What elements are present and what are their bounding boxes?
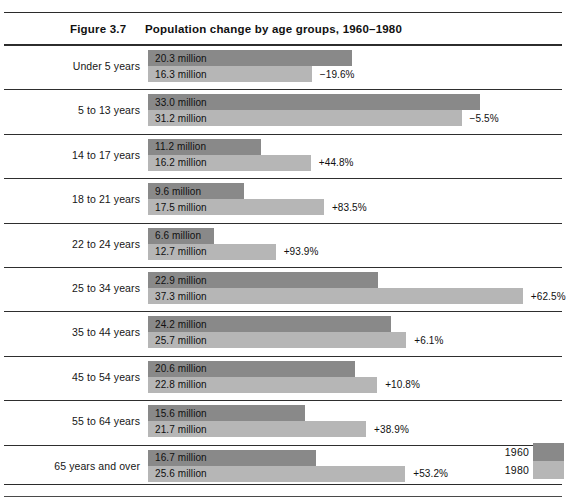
bar-value-1960: 22.9 million xyxy=(155,275,207,286)
bar-1960: 11.2 million xyxy=(148,139,261,155)
bar-value-1960: 20.6 million xyxy=(155,363,207,374)
row-category-label: 65 years and over xyxy=(0,445,140,487)
bar-value-1960: 20.3 million xyxy=(155,53,207,64)
bar-value-1960: 16.7 million xyxy=(155,452,207,463)
bar-1980: 16.2 million xyxy=(148,155,311,171)
bar-1960: 9.6 million xyxy=(148,183,244,199)
row-category-label: 55 to 64 years xyxy=(0,400,140,442)
bar-1960: 16.7 million xyxy=(148,450,316,466)
bar-value-1980: 25.6 million xyxy=(155,468,207,479)
row-bars: 15.6 million21.7 million+38.9% xyxy=(148,405,564,439)
bar-1960: 33.0 million xyxy=(148,94,480,110)
row-bars: 33.0 million31.2 million−5.5% xyxy=(148,94,564,128)
row-category-label: 25 to 34 years xyxy=(0,267,140,309)
row-bars: 24.2 million25.7 million+6.1% xyxy=(148,316,564,350)
bar-1960: 20.3 million xyxy=(148,50,352,66)
bar-1980: 17.5 million xyxy=(148,199,324,215)
bar-value-1960: 33.0 million xyxy=(155,97,207,108)
bar-value-1960: 6.6 million xyxy=(155,230,201,241)
bar-1960: 15.6 million xyxy=(148,405,305,421)
row-bars: 22.9 million37.3 million+62.5% xyxy=(148,272,564,306)
row-bars: 6.6 million12.7 million+93.9% xyxy=(148,228,564,262)
bar-value-1980: 16.3 million xyxy=(155,69,207,80)
row-category-label: 5 to 13 years xyxy=(0,89,140,131)
figure-number: Figure 3.7 xyxy=(70,23,126,35)
bar-value-1980: 37.3 million xyxy=(155,291,207,302)
percent-change-label: +53.2% xyxy=(413,466,448,482)
legend-swatch-1960 xyxy=(533,443,564,461)
percent-change-label: +38.9% xyxy=(374,421,409,437)
percent-change-label: +10.8% xyxy=(385,377,420,393)
bar-1980: 22.8 million xyxy=(148,377,377,393)
percent-change-label: +44.8% xyxy=(319,155,354,171)
row-category-label: Under 5 years xyxy=(0,45,140,87)
row-bars: 9.6 million17.5 million+83.5% xyxy=(148,183,564,217)
bar-1980: 12.7 million xyxy=(148,244,276,260)
bar-1960: 20.6 million xyxy=(148,361,355,377)
bar-value-1980: 17.5 million xyxy=(155,202,207,213)
bar-value-1960: 24.2 million xyxy=(155,319,207,330)
figure-header: Figure 3.7 Population change by age grou… xyxy=(0,16,564,42)
row-category-label: 14 to 17 years xyxy=(0,134,140,176)
footer-rule-top xyxy=(4,484,562,485)
legend-label-1980: 1980 xyxy=(505,464,529,476)
bar-1980: 31.2 million xyxy=(148,110,462,126)
chart-row: 5 to 13 years33.0 million31.2 million−5.… xyxy=(0,89,564,131)
header-rule-top xyxy=(4,12,562,13)
bar-1960: 6.6 million xyxy=(148,228,214,244)
row-bars: 20.6 million22.8 million+10.8% xyxy=(148,361,564,395)
row-category-label: 35 to 44 years xyxy=(0,311,140,353)
bar-1980: 25.6 million xyxy=(148,466,405,482)
bar-value-1980: 31.2 million xyxy=(155,113,207,124)
footer-rule-bottom xyxy=(4,496,562,497)
percent-change-label: +6.1% xyxy=(414,332,443,348)
bar-value-1960: 11.2 million xyxy=(155,141,206,152)
chart-row: 35 to 44 years24.2 million25.7 million+6… xyxy=(0,311,564,353)
percent-change-label: −5.5% xyxy=(470,110,499,126)
legend-label-1960: 1960 xyxy=(505,446,529,458)
percent-change-label: +62.5% xyxy=(531,288,566,304)
chart-row: 25 to 34 years22.9 million37.3 million+6… xyxy=(0,267,564,309)
chart-row: 55 to 64 years15.6 million21.7 million+3… xyxy=(0,400,564,442)
bar-value-1980: 12.7 million xyxy=(155,246,207,257)
bar-1980: 25.7 million xyxy=(148,332,406,348)
bar-1980: 37.3 million xyxy=(148,288,523,304)
legend-swatch-1980 xyxy=(533,461,564,479)
chart-row: 65 years and over16.7 million25.6 millio… xyxy=(0,445,564,487)
bar-1960: 24.2 million xyxy=(148,316,391,332)
bar-value-1980: 25.7 million xyxy=(155,335,207,346)
bar-1980: 21.7 million xyxy=(148,421,366,437)
chart-row: 22 to 24 years6.6 million12.7 million+93… xyxy=(0,223,564,265)
percent-change-label: −19.6% xyxy=(320,66,355,82)
row-bars: 20.3 million16.3 million−19.6% xyxy=(148,50,564,84)
bar-value-1960: 9.6 million xyxy=(155,186,201,197)
chart-row: 18 to 21 years9.6 million17.5 million+83… xyxy=(0,178,564,220)
bar-1960: 22.9 million xyxy=(148,272,378,288)
legend-entry-1960: 1960 xyxy=(490,443,564,461)
row-category-label: 22 to 24 years xyxy=(0,223,140,265)
percent-change-label: +83.5% xyxy=(332,199,367,215)
bar-value-1980: 16.2 million xyxy=(155,157,207,168)
row-bars: 11.2 million16.2 million+44.8% xyxy=(148,139,564,173)
chart-row: Under 5 years20.3 million16.3 million−19… xyxy=(0,45,564,87)
percent-change-label: +93.9% xyxy=(284,244,319,260)
bar-1980: 16.3 million xyxy=(148,66,312,82)
row-category-label: 45 to 54 years xyxy=(0,356,140,398)
figure-title: Population change by age groups, 1960–19… xyxy=(145,23,402,35)
chart-legend: 1960 1980 xyxy=(490,443,564,479)
bar-value-1960: 15.6 million xyxy=(155,408,207,419)
chart-row: 45 to 54 years20.6 million22.8 million+1… xyxy=(0,356,564,398)
row-category-label: 18 to 21 years xyxy=(0,178,140,220)
bar-value-1980: 22.8 million xyxy=(155,379,207,390)
legend-entry-1980: 1980 xyxy=(490,461,564,479)
bar-value-1980: 21.7 million xyxy=(155,424,207,435)
chart-row: 14 to 17 years11.2 million16.2 million+4… xyxy=(0,134,564,176)
